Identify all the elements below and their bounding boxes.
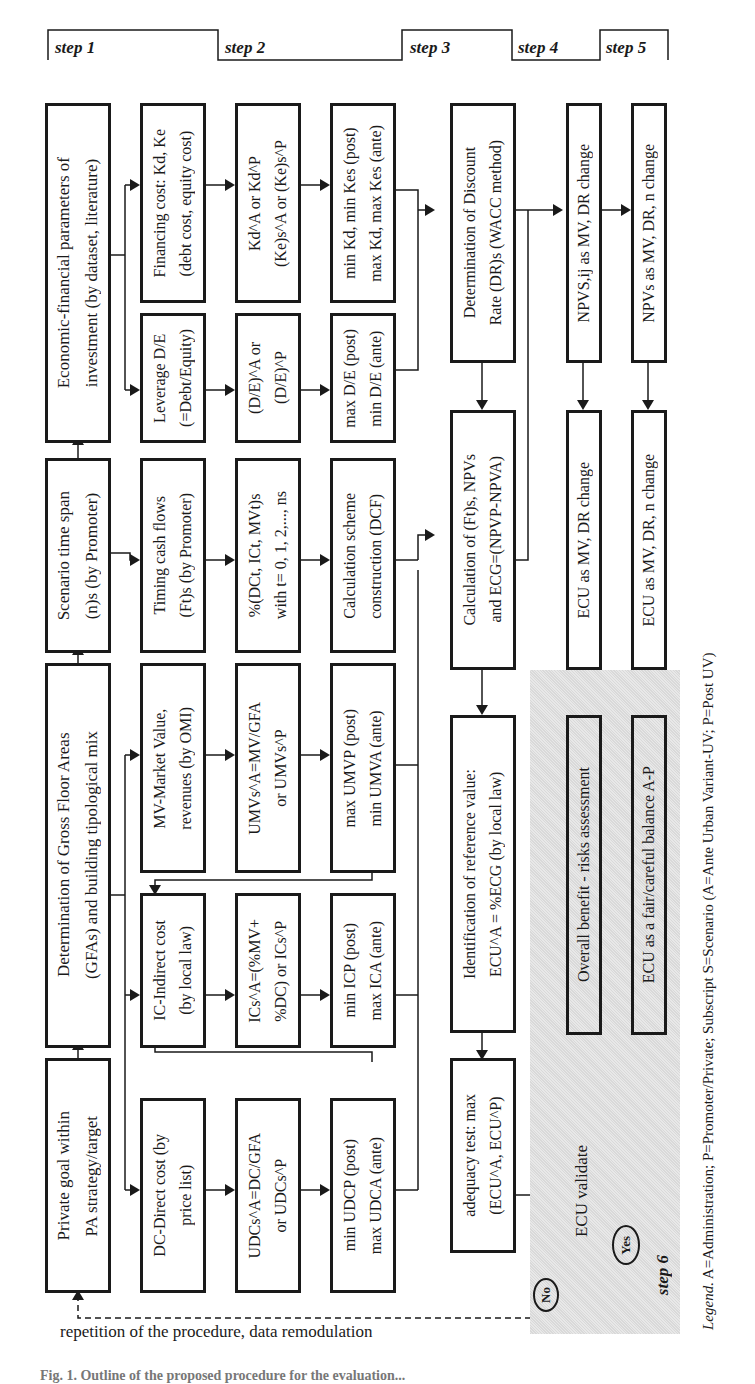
private-goal-box: Private goal withinPA strategy/target [45,1058,111,1293]
reference-value-box: Identification of reference value:ECU^A … [450,715,516,1033]
min-max-umv-box: max UMVP (post)min UMVA (ante) [330,663,396,873]
step3-label: step 3 [410,38,450,58]
ecu-validate-decision: ECU validate [572,1145,592,1237]
npv-mv-dr-n-box: NPVs as MV, DR, n change [631,103,667,363]
discount-rate-box: Determination of DiscountRate (DR)s (WAC… [450,103,516,363]
gfa-box: Determination of Gross Floor Areas(GFAs)… [45,663,111,1048]
adequacy-test-box: adequacy test: max(ECU^A, ECU^P) [450,1058,516,1253]
leverage-box: Leverage D/E(=Debt/Equity) [140,313,206,443]
udc-box: UDCs^A=DC/GFAor UDCs^P [235,1098,301,1293]
figure-caption: Fig. 1. Outline of the proposed procedur… [40,1368,405,1384]
feedback-note: repetition of the procedure, data remodu… [60,1322,373,1342]
step1-label: step 1 [55,38,95,58]
percent-flows-box: %(DCt, ICt, MVt)swith t= 0, 1, 2,..., ns [235,458,301,653]
min-max-udc-box: min UDCP (post)max UDCA (ante) [330,1098,396,1293]
step2-label: step 2 [225,38,265,58]
kd-ke-box: Kd^A or Kd^P(Ke)s^A or (Ke)s^P [235,103,301,303]
market-value-box: MV-Market Value,revenues (by OMI) [140,663,206,873]
min-max-ic-box: min ICP (post)max ICA (ante) [330,893,396,1048]
timing-cash-flows-box: Timing cash flows(Ft)s (by Promoter) [140,458,206,653]
ics-box: ICs^A=(%MV+%DC) or ICs^P [235,893,301,1048]
ecu-mv-dr-n-box: ECU as MV, DR, n change [631,410,667,670]
umv-box: UMVs^A=MV/GFAor UMVs^P [235,663,301,873]
indirect-cost-box: IC-Indirect cost(by local law) [140,893,206,1048]
step4-label: step 4 [518,38,558,58]
ecu-mv-dr-box: ECU as MV, DR change [566,410,602,670]
yes-badge: Yes [612,1225,640,1265]
de-ratio-box: (D/E)^A or(D/E)^P [235,313,301,443]
scenario-time-span-box: Scenario time span(n)s (by Promoter) [45,458,111,653]
step6-label: step 6 [653,1255,673,1295]
financing-cost-box: Financing cost: Kd, Ke(debt cost, equity… [140,103,206,303]
min-max-k-box: min Kd, min Kes (post)max Kd, max Kes (a… [330,103,396,303]
ecu-fair-balance-box: ECU as a fair/careful balance A-P [631,715,667,1035]
step5-label: step 5 [606,38,646,58]
npv-mv-dr-box: NPVS,ij as MV, DR change [566,103,602,363]
overall-benefit-box: Overall benefit - risks assessment [566,715,602,1035]
direct-cost-box: DC-Direct cost (byprice list) [140,1098,206,1293]
economic-financial-box: Economic-financial parameters ofinvestme… [45,103,111,443]
min-max-de-box: max D/E (post)min D/E (ante) [330,313,396,443]
calculation-npv-box: Calculation of (Ft)s, NPVsand ECG=(NPVP-… [450,410,516,670]
dcf-box: Calculation schemeconstruction (DCF) [330,458,396,653]
legend: Legend. A=Administration; P=Promoter/Pri… [700,100,717,1330]
no-badge: No [533,1278,559,1312]
